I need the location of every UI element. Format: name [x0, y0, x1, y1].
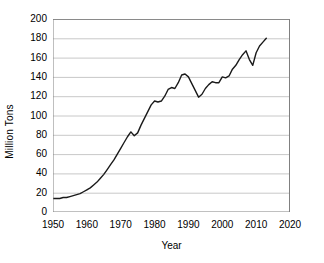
y-axis-title: Million Tons — [2, 0, 18, 263]
y-tick-label: 40 — [17, 168, 47, 178]
gridlines — [53, 20, 290, 194]
x-tick-label: 2020 — [270, 220, 310, 230]
y-tick-label: 120 — [17, 91, 47, 101]
y-tick-label: 0 — [17, 207, 47, 217]
y-tick-label: 140 — [17, 72, 47, 82]
y-tick-label: 60 — [17, 149, 47, 159]
y-tick-label: 200 — [17, 14, 47, 24]
y-tick-label: 180 — [17, 33, 47, 43]
plot-svg — [53, 19, 290, 212]
y-tick-label: 100 — [17, 111, 47, 121]
x-axis-title: Year — [53, 240, 290, 252]
line-chart: Million Tons 200180160140120100806040200… — [0, 0, 324, 263]
plot-area — [53, 19, 290, 212]
data-series-line — [53, 38, 266, 198]
y-tick-label: 80 — [17, 130, 47, 140]
y-tick-label: 160 — [17, 53, 47, 63]
y-tick-label: 20 — [17, 188, 47, 198]
